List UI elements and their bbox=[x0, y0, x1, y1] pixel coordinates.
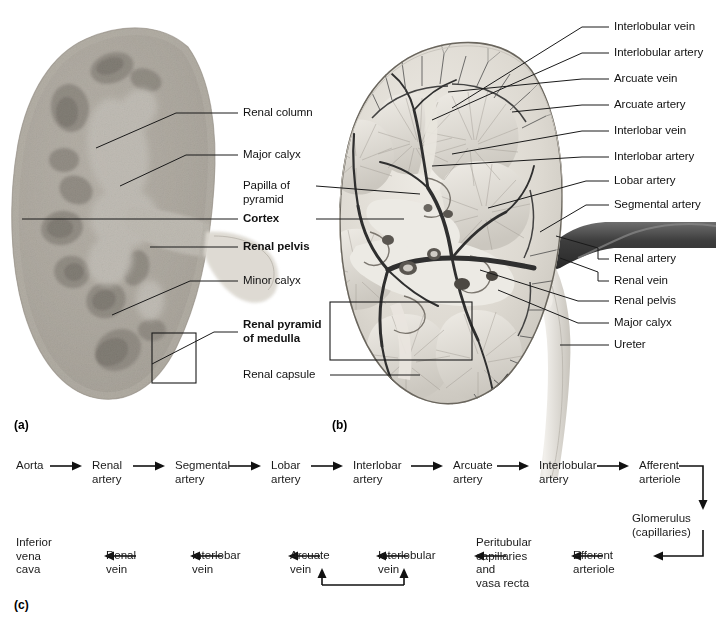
label-renal-pelvis-b: Renal pelvis bbox=[614, 294, 676, 308]
label-renal-pyramid-of-medulla: Renal pyramid of medulla bbox=[243, 318, 322, 345]
label-minor-calyx: Minor calyx bbox=[243, 274, 301, 288]
label-renal-pelvis-a: Renal pelvis bbox=[243, 240, 310, 254]
flow-glomerulus: Glomerulus (capillaries) bbox=[632, 512, 691, 539]
label-renal-column: Renal column bbox=[243, 106, 313, 120]
flow-arcuate-vein: Arcuate vein bbox=[290, 549, 330, 576]
flow-afferent-arteriole: Afferent arteriole bbox=[639, 459, 681, 486]
label-interlobular-artery-b: Interlobular artery bbox=[614, 46, 703, 60]
label-cortex: Cortex bbox=[243, 212, 279, 226]
label-interlobar-vein-b: Interlobar vein bbox=[614, 124, 686, 138]
label-papilla-of-pyramid: Papilla of pyramid bbox=[243, 179, 290, 206]
flow-segmental-artery: Segmental artery bbox=[175, 459, 230, 486]
label-renal-artery-b: Renal artery bbox=[614, 252, 676, 266]
panel-letter-a: (a) bbox=[14, 418, 29, 432]
label-ureter-b: Ureter bbox=[614, 338, 646, 352]
label-renal-capsule: Renal capsule bbox=[243, 368, 315, 382]
label-interlobular-vein-b: Interlobular vein bbox=[614, 20, 695, 34]
label-major-calyx-b: Major calyx bbox=[614, 316, 672, 330]
label-segmental-artery-b: Segmental artery bbox=[614, 198, 701, 212]
flow-inferior-vena-cava: Inferior vena cava bbox=[16, 536, 52, 577]
flow-peritubular-capillaries-vasa-recta: Peritubular capillaries and vasa recta bbox=[476, 536, 532, 590]
flow-efferent-arteriole: Efferent arteriole bbox=[573, 549, 615, 576]
flow-arcuate-artery: Arcuate artery bbox=[453, 459, 493, 486]
flow-interlobular-artery: Interlobular artery bbox=[539, 459, 597, 486]
panel-letter-b: (b) bbox=[332, 418, 347, 432]
panel-a-photograph bbox=[0, 10, 278, 410]
flow-renal-artery: Renal artery bbox=[92, 459, 122, 486]
flow-renal-vein: Renal vein bbox=[106, 549, 136, 576]
flow-interlobular-vein: Interlobular vein bbox=[378, 549, 436, 576]
label-lobar-artery-b: Lobar artery bbox=[614, 174, 675, 188]
label-renal-vein-b: Renal vein bbox=[614, 274, 668, 288]
panel-letter-c: (c) bbox=[14, 598, 29, 612]
label-arcuate-vein-b: Arcuate vein bbox=[614, 72, 677, 86]
label-major-calyx-a: Major calyx bbox=[243, 148, 301, 162]
figure-canvas bbox=[0, 0, 723, 625]
flow-aorta: Aorta bbox=[16, 459, 44, 473]
label-arcuate-artery-b: Arcuate artery bbox=[614, 98, 686, 112]
flow-interlobar-vein: Interlobar vein bbox=[192, 549, 241, 576]
flow-lobar-artery: Lobar artery bbox=[271, 459, 300, 486]
label-interlobar-artery-b: Interlobar artery bbox=[614, 150, 694, 164]
flow-interlobar-artery: Interlobar artery bbox=[353, 459, 402, 486]
